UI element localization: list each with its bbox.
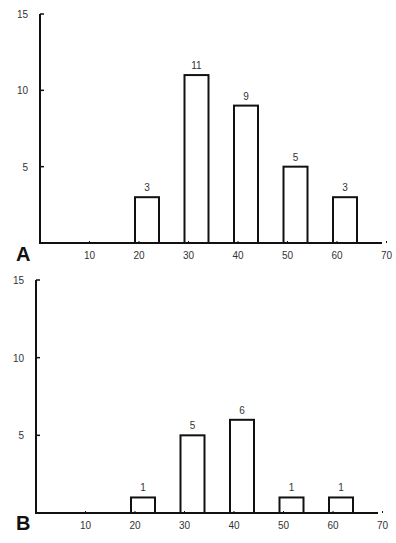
x-tick-label: 40 xyxy=(232,250,244,261)
x-tick-label: 40 xyxy=(228,520,240,531)
data-label: 9 xyxy=(243,91,249,102)
y-tick-label: 5 xyxy=(18,430,24,441)
data-label: 3 xyxy=(144,182,150,193)
data-label: 1 xyxy=(338,482,344,493)
x-tick-label: 30 xyxy=(183,250,195,261)
bar-20 xyxy=(131,497,155,513)
data-label: 6 xyxy=(239,405,245,416)
x-tick-label: 20 xyxy=(133,250,145,261)
bar-60 xyxy=(333,197,357,243)
data-label: 1 xyxy=(289,482,295,493)
bar-50 xyxy=(280,497,304,513)
data-label: 5 xyxy=(190,420,196,431)
data-label: 5 xyxy=(293,152,299,163)
data-label: 11 xyxy=(191,60,202,71)
bar-40 xyxy=(234,106,258,243)
x-tick-label: 10 xyxy=(80,520,92,531)
x-tick-label: 70 xyxy=(377,520,389,531)
chart-panel-a: 3119535101510203040506070 A xyxy=(0,0,396,270)
x-tick-label: 60 xyxy=(327,520,339,531)
bar-30 xyxy=(181,435,205,513)
y-tick-label: 15 xyxy=(13,275,25,286)
x-tick-label: 10 xyxy=(84,250,96,261)
data-label: 3 xyxy=(342,182,348,193)
bar-50 xyxy=(284,167,308,243)
bar-60 xyxy=(329,497,353,513)
bar-chart-a: 3119535101510203040506070 xyxy=(0,0,396,270)
bar-30 xyxy=(185,75,209,243)
x-tick-label: 50 xyxy=(282,250,294,261)
y-tick-label: 10 xyxy=(17,85,29,96)
x-tick-label: 70 xyxy=(381,250,393,261)
data-label: 1 xyxy=(140,482,146,493)
y-tick-label: 10 xyxy=(13,353,25,364)
panel-label-a: A xyxy=(16,243,30,266)
chart-panel-b: 156115101510203040506070 B xyxy=(0,270,396,543)
x-tick-label: 50 xyxy=(278,520,290,531)
bar-chart-b: 156115101510203040506070 xyxy=(0,270,396,543)
panel-label-b: B xyxy=(16,512,30,535)
bar-40 xyxy=(230,420,254,513)
x-tick-label: 20 xyxy=(129,520,141,531)
y-tick-label: 5 xyxy=(22,162,28,173)
bar-20 xyxy=(135,197,159,243)
x-tick-label: 30 xyxy=(179,520,191,531)
x-tick-label: 60 xyxy=(331,250,343,261)
y-tick-label: 15 xyxy=(17,9,29,20)
